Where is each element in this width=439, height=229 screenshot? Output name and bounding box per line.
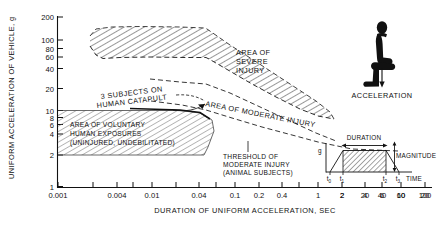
x-tick-label: 60 bbox=[397, 191, 405, 200]
y-axis-title: UNIFORM ACCELERATION OF VEHICLE, g bbox=[7, 16, 16, 179]
x-tick-label: 0.04 bbox=[192, 191, 207, 200]
x-tick-label: 0.01 bbox=[145, 191, 160, 200]
inset-magnitude-label: MAGNITUDE bbox=[396, 152, 436, 159]
severe-injury-label-line3: INJURY bbox=[236, 66, 265, 75]
voluntary-label-line2: HUMAN EXPOSURES bbox=[70, 130, 142, 137]
x-axis-title: DURATION OF UNIFORM ACCELERATION, SEC bbox=[154, 206, 336, 215]
x-tick-labels-tail: 2 bbox=[340, 191, 344, 200]
threshold-label-line2: MODERATE INJURY bbox=[223, 161, 290, 168]
y-tick-label: 60 bbox=[46, 53, 54, 62]
x-tick-label: 0.2 bbox=[254, 191, 265, 200]
inset-t2-sub: 2 bbox=[385, 179, 388, 184]
inset-duration-label: DURATION bbox=[347, 134, 382, 141]
inset-g-label: g bbox=[318, 147, 322, 155]
voluntary-label-line1: AREA OF VOLUNTARY bbox=[70, 121, 146, 128]
inset-t0-sub: 0 bbox=[329, 179, 332, 184]
y-tick-label: 40 bbox=[46, 65, 54, 74]
x-tick-label: 0.4 bbox=[277, 191, 288, 200]
y-tick-label: 20 bbox=[46, 85, 54, 94]
x-tick-label: 1 bbox=[316, 191, 320, 200]
y-tick-label: 2 bbox=[50, 151, 54, 160]
inset-t3-sub: 3 bbox=[398, 179, 401, 184]
threshold-label-line1: THRESHOLD OF bbox=[223, 153, 278, 160]
threshold-label-line3: (ANIMAL SUBJECTS) bbox=[223, 169, 293, 177]
y-tick-label: 6 bbox=[50, 121, 54, 130]
x-tick-label: 0.004 bbox=[107, 191, 126, 200]
y-tick-label: 4 bbox=[50, 130, 54, 139]
inset-duration-fill bbox=[343, 151, 386, 173]
x-tick-label: 0.1 bbox=[230, 191, 241, 200]
x-tick-label: 100 bbox=[419, 191, 432, 200]
severe-injury-label-line1: AREA OF bbox=[236, 48, 271, 57]
acceleration-tolerance-chart: 200 100 80 60 40 20 10 8 6 4 2 1 0.001 bbox=[0, 0, 439, 229]
x-tick-label-dup-4: 2 bbox=[340, 191, 344, 200]
x-tick-label: 40 bbox=[378, 191, 386, 200]
voluntary-label-line3: (UNINJURED, UNDEBILITATED) bbox=[70, 139, 175, 147]
figure-canvas: 200 100 80 60 40 20 10 8 6 4 2 1 0.001 bbox=[0, 0, 439, 229]
x-tick-label: 20 bbox=[361, 191, 369, 200]
x-tick-label: 0.001 bbox=[48, 191, 67, 200]
acceleration-icon-label: ACCELERATION bbox=[351, 91, 412, 100]
inset-time-label: TIME bbox=[406, 175, 422, 182]
y-tick-label: 200 bbox=[41, 13, 54, 22]
severe-injury-label-line2: SEVERE bbox=[236, 57, 268, 66]
inset-t1-sub: 1 bbox=[342, 179, 345, 184]
